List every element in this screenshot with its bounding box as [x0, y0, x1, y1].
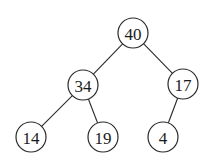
edges-group: [42, 44, 178, 127]
node-label: 34: [75, 77, 93, 96]
tree-node-40: 40: [118, 18, 148, 48]
node-label: 14: [23, 129, 41, 148]
tree-node-34: 34: [68, 70, 98, 100]
node-label: 17: [175, 76, 193, 95]
node-label: 4: [159, 129, 168, 148]
tree-node-19: 19: [88, 122, 118, 152]
tree-svg: 40341714194: [0, 0, 214, 160]
node-label: 19: [95, 129, 112, 148]
edge-40-17: [144, 44, 173, 74]
edge-17-4: [168, 98, 177, 123]
tree-node-14: 14: [16, 122, 46, 152]
edge-34-19: [88, 99, 97, 123]
tree-node-17: 17: [168, 69, 198, 99]
node-label: 40: [125, 25, 142, 44]
edge-34-14: [42, 96, 73, 127]
edge-40-34: [93, 44, 122, 74]
nodes-group: 40341714194: [16, 18, 198, 152]
tree-diagram: 40341714194: [0, 0, 214, 160]
tree-node-4: 4: [148, 122, 178, 152]
